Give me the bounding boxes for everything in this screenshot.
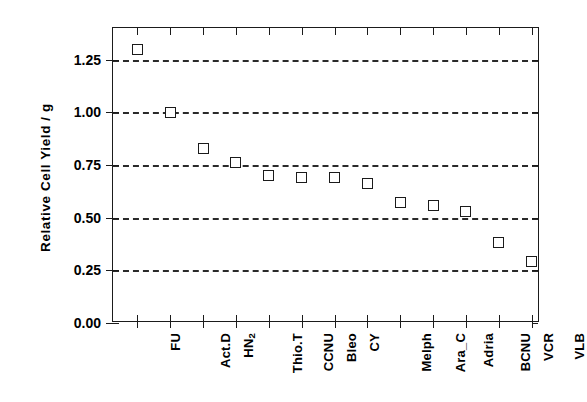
x-tick-Adria <box>433 321 434 328</box>
x-axis-label-Act.D: Act.D <box>219 333 234 368</box>
y-tick-inner-1.25 <box>113 60 119 61</box>
x-tick-top-CCNU <box>269 28 270 35</box>
x-tick-Act.D <box>170 321 171 328</box>
gridline-0.50 <box>113 218 538 220</box>
gridline-1.00 <box>113 112 538 114</box>
data-point-VCR <box>493 237 504 248</box>
x-tick-top-Act.D <box>170 28 171 35</box>
x-axis-label-CCNU: CCNU <box>321 333 336 371</box>
x-tick-top-HN2 <box>203 28 204 35</box>
y-axis-title: Relative Cell Yield / g <box>38 48 53 308</box>
x-axis-label-BCNU: BCNU <box>518 333 533 371</box>
x-axis-label-FU: FU <box>169 333 184 351</box>
x-tick-top-FU <box>137 28 138 35</box>
y-tick-inner-0.50 <box>113 218 119 219</box>
data-point-Adria <box>428 200 439 211</box>
x-tick-inner-VLB <box>532 315 533 321</box>
data-point-Bleo <box>296 172 307 183</box>
y-tick-0.75 <box>106 165 113 166</box>
x-axis-label-Bleo: Bleo <box>344 333 359 362</box>
y-tick-0.00 <box>106 323 113 324</box>
y-tick-label-0.25: 0.25 <box>74 262 101 278</box>
y-tick-1.00 <box>106 112 113 113</box>
x-tick-inner-FU <box>137 315 138 321</box>
x-axis-label-VCR: VCR <box>540 333 555 361</box>
x-axis-label-Melph: Melph <box>419 333 434 372</box>
y-tick-inner-0.00 <box>113 323 119 324</box>
x-tick-top-VCR <box>499 28 500 35</box>
plot-area: 0.000.250.500.751.001.25 FUAct.DHN2Thio.… <box>112 27 539 322</box>
x-tick-inner-CY <box>335 315 336 321</box>
y-tick-0.50 <box>106 218 113 219</box>
x-axis-label-VLB: VLB <box>572 333 587 360</box>
x-tick-top-Adria <box>433 28 434 35</box>
y-tick-label-0.50: 0.50 <box>74 210 101 226</box>
x-tick-Bleo <box>302 321 303 328</box>
x-tick-inner-Bleo <box>302 315 303 321</box>
x-axis-label-Adria: Adria <box>481 333 496 367</box>
data-point-Ara_C <box>395 197 406 208</box>
y-tick-inner-0.75 <box>113 165 119 166</box>
x-tick-top-Ara_C <box>400 28 401 35</box>
x-tick-inner-CCNU <box>269 315 270 321</box>
x-tick-inner-VCR <box>499 315 500 321</box>
x-tick-inner-BCNU <box>466 315 467 321</box>
data-point-CY <box>329 172 340 183</box>
x-tick-Thio.T <box>236 321 237 328</box>
gridline-1.25 <box>113 60 538 62</box>
x-tick-CCNU <box>269 321 270 328</box>
x-tick-FU <box>137 321 138 328</box>
gridline-0.25 <box>113 270 538 272</box>
x-tick-CY <box>335 321 336 328</box>
x-axis-label-Thio.T: Thio.T <box>290 333 305 373</box>
x-tick-inner-Melph <box>367 315 368 321</box>
gridline-0.75 <box>113 165 538 167</box>
y-tick-label-1.00: 1.00 <box>74 104 101 120</box>
x-tick-top-Thio.T <box>236 28 237 35</box>
data-point-FU <box>132 44 143 55</box>
x-tick-VLB <box>532 321 533 328</box>
x-tick-top-VLB <box>532 28 533 35</box>
x-tick-top-Melph <box>367 28 368 35</box>
x-tick-Ara_C <box>400 321 401 328</box>
y-tick-right-0.00 <box>532 323 538 324</box>
y-tick-0.25 <box>106 270 113 271</box>
y-tick-right-1.25 <box>532 60 538 61</box>
x-axis-label-HN2: HN2 <box>241 333 256 358</box>
y-tick-right-0.25 <box>532 270 538 271</box>
data-point-VLB <box>526 256 537 267</box>
x-tick-HN2 <box>203 321 204 328</box>
y-tick-right-0.50 <box>532 218 538 219</box>
x-tick-inner-Adria <box>433 315 434 321</box>
data-point-Melph <box>362 178 373 189</box>
data-point-HN2 <box>198 143 209 154</box>
x-tick-BCNU <box>466 321 467 328</box>
x-tick-inner-HN2 <box>203 315 204 321</box>
x-tick-top-BCNU <box>466 28 467 35</box>
x-tick-inner-Ara_C <box>400 315 401 321</box>
x-tick-top-Bleo <box>302 28 303 35</box>
x-tick-VCR <box>499 321 500 328</box>
y-tick-label-0.75: 0.75 <box>74 157 101 173</box>
y-tick-right-1.00 <box>532 112 538 113</box>
y-tick-right-0.75 <box>532 165 538 166</box>
x-axis-label-Ara_C: Ara_C <box>453 333 468 372</box>
x-tick-top-CY <box>335 28 336 35</box>
y-tick-label-0.00: 0.00 <box>74 315 101 331</box>
y-tick-inner-0.25 <box>113 270 119 271</box>
data-point-BCNU <box>460 206 471 217</box>
data-point-Thio.T <box>230 157 241 168</box>
y-tick-inner-1.00 <box>113 112 119 113</box>
y-tick-label-1.25: 1.25 <box>74 52 101 68</box>
data-point-CCNU <box>263 170 274 181</box>
x-tick-inner-Thio.T <box>236 315 237 321</box>
x-axis-label-CY: CY <box>366 333 381 351</box>
x-tick-inner-Act.D <box>170 315 171 321</box>
x-tick-Melph <box>367 321 368 328</box>
data-point-Act.D <box>165 107 176 118</box>
y-tick-1.25 <box>106 60 113 61</box>
